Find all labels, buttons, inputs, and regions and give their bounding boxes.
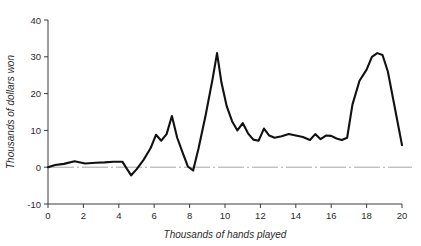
y-tick-label: 20 xyxy=(30,88,41,99)
x-tick-label: 6 xyxy=(152,210,157,221)
x-tick-label: 18 xyxy=(361,210,372,221)
series-path-cumulative-winnings xyxy=(48,53,402,175)
x-tick-label: 2 xyxy=(81,210,86,221)
x-tick-label: 14 xyxy=(291,210,302,221)
y-tick-label: 10 xyxy=(30,125,41,136)
series-group xyxy=(48,53,402,175)
x-tick-label: 4 xyxy=(116,210,121,221)
y-tick-group: -10010203040 xyxy=(27,15,48,210)
y-tick-label: -10 xyxy=(27,199,41,210)
x-tick-group: 02468101214161820 xyxy=(45,204,407,221)
x-tick-label: 8 xyxy=(187,210,192,221)
x-tick-label: 10 xyxy=(220,210,231,221)
y-tick-label: 0 xyxy=(36,162,41,173)
chart-container: -10010203040 02468101214161820 Thousands… xyxy=(0,0,421,246)
x-tick-label: 16 xyxy=(326,210,337,221)
x-axis: 02468101214161820 xyxy=(45,204,407,221)
line-chart: -10010203040 02468101214161820 Thousands… xyxy=(0,0,421,246)
x-axis-title: Thousands of hands played xyxy=(164,229,287,240)
y-tick-label: 40 xyxy=(30,15,41,26)
y-axis-title: Thousands of dollars won xyxy=(5,55,16,169)
x-tick-label: 12 xyxy=(255,210,266,221)
x-tick-label: 0 xyxy=(45,210,50,221)
y-axis: -10010203040 xyxy=(27,15,48,210)
y-tick-label: 30 xyxy=(30,51,41,62)
x-tick-label: 20 xyxy=(397,210,408,221)
